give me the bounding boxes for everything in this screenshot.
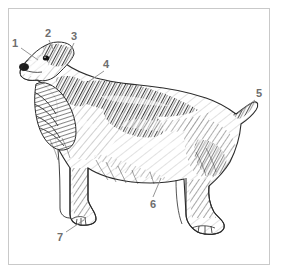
callout-number-1: 1: [12, 38, 18, 49]
callout-number-4: 4: [103, 59, 109, 70]
illustration-figure: 1234567: [0, 0, 286, 274]
callout-number-7: 7: [57, 232, 63, 243]
callout-number-2: 2: [45, 28, 51, 39]
callout-number-5: 5: [256, 88, 262, 99]
dog-body-shading: [0, 0, 286, 274]
callout-number-3: 3: [71, 31, 77, 42]
dog-drawing-svg: [0, 0, 286, 274]
callout-number-6: 6: [150, 199, 156, 210]
dog-illustration: [0, 0, 286, 274]
